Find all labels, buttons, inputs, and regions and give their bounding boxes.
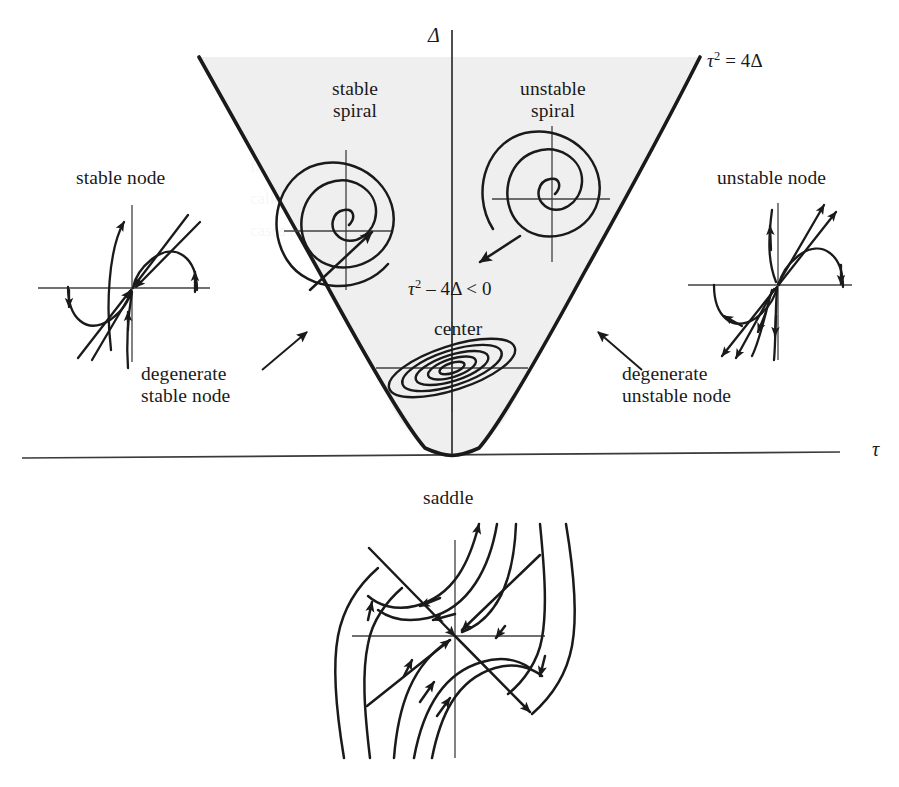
region-condition-tau: τ (408, 278, 415, 299)
figure-canvas: the degenerate stable and unstable nodes… (0, 0, 899, 787)
stable-spiral-label-line1: stable (313, 78, 397, 100)
unstable-spiral-label-line1: unstable (503, 78, 603, 100)
unstable-spiral-label: unstable spiral (503, 78, 603, 122)
stable-node-portrait (38, 205, 210, 368)
parabola-equation-tau: τ (707, 50, 714, 71)
degenerate-stable-node-label-line2: stable node (141, 385, 230, 407)
trace-determinant-diagram (0, 0, 899, 787)
parabola-equation-label: τ2 = 4Δ (707, 50, 763, 71)
degenerate-stable-node-label: degenerate stable node (141, 363, 230, 407)
unstable-node-portrait (688, 203, 852, 360)
degenerate-unstable-node-label-line2: unstable node (622, 385, 731, 407)
degenerate-unstable-node-label: degenerate unstable node (622, 363, 731, 407)
unstable-spiral-label-line2: spiral (503, 100, 603, 122)
stable-node-label: stable node (76, 167, 165, 189)
region-condition-label: τ2 – 4Δ < 0 (408, 278, 492, 299)
stable-spiral-label: stable spiral (313, 78, 397, 122)
delta-axis-label: Δ (428, 24, 440, 46)
center-label: center (434, 318, 482, 340)
stable-spiral-label-line2: spiral (313, 100, 397, 122)
degenerate-unstable-node-label-line1: degenerate (622, 363, 731, 385)
saddle-portrait (335, 524, 575, 758)
unstable-node-label: unstable node (717, 167, 826, 189)
tau-axis-label: τ (872, 438, 879, 460)
region-condition-rest: – 4Δ < 0 (421, 278, 491, 299)
degenerate-stable-node-pointer (262, 332, 307, 370)
degenerate-stable-node-label-line1: degenerate (141, 363, 230, 385)
parabola-equation-rest: = 4Δ (720, 50, 762, 71)
saddle-label: saddle (423, 487, 473, 509)
